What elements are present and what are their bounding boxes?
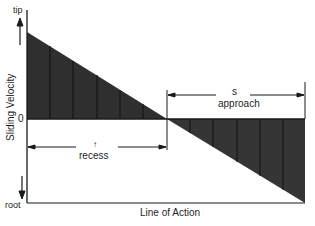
recess-label: recess [79,151,108,161]
x-axis-label: Line of Action [140,208,200,218]
root-label: root [5,201,21,210]
tip-label: tip [13,6,23,15]
approach-marker: s [232,87,237,97]
approach-velocity-region [167,119,305,203]
recess-marker: ↑ [93,141,97,149]
y-axis-label: Sliding Velocity [5,74,16,141]
tip-arrow-icon [17,18,23,45]
approach-label: approach [218,99,260,109]
zero-label: 0 [18,114,24,124]
sliding-velocity-diagram [0,0,315,226]
recess-dimension [28,119,167,150]
root-arrow-icon [19,176,25,199]
